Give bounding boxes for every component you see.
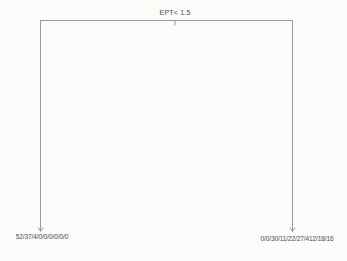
leaf-label-left: 52/37/4/0/0/0/0/0/0 bbox=[16, 233, 68, 240]
decision-tree-figure: EPT< 1.5 52/37/4/0/0/0/0/0/0 0/0/30/11/2… bbox=[0, 0, 347, 261]
leaf-label-right: 0/0/30/11/22/27/412/18/16 bbox=[261, 235, 334, 242]
root-split-label: EPT< 1.5 bbox=[160, 9, 191, 16]
tree-branches-canvas bbox=[0, 0, 347, 261]
